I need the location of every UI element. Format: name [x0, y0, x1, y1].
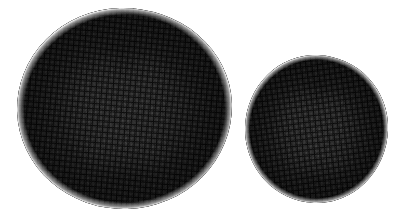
coin-image-small: [242, 53, 390, 206]
coin-image-large: [14, 5, 234, 212]
coin-plate-figure: Two worn silver coins, obverse views Lar…: [0, 0, 404, 222]
